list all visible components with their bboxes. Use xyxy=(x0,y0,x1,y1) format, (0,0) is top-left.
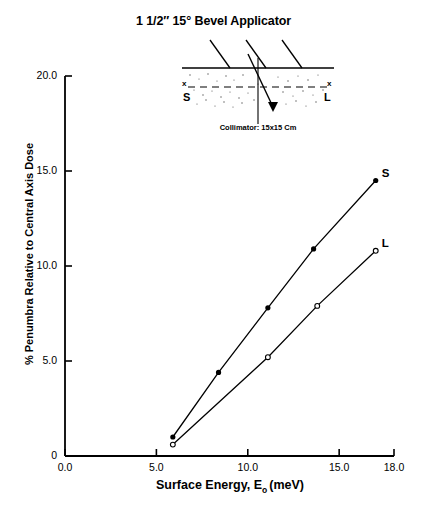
x-tick-label: 18.0 xyxy=(369,461,419,473)
x-tick-label: 10.0 xyxy=(223,461,273,473)
x-axis-title-main: Surface Energy, E xyxy=(156,478,262,492)
data-point-l xyxy=(265,355,270,360)
data-point-l xyxy=(315,304,320,309)
data-point-s xyxy=(373,178,378,183)
plot-area xyxy=(0,0,427,506)
tick-marks xyxy=(65,76,394,456)
data-series xyxy=(170,178,378,447)
y-axis-title: % Penumbra Relative to Central Axis Dose xyxy=(23,89,35,419)
data-point-l xyxy=(170,442,175,447)
series-label-s: S xyxy=(382,167,390,179)
x-axis-title-subscript: o xyxy=(262,485,267,495)
x-tick-label: 0.0 xyxy=(40,461,90,473)
x-tick-label: 5.0 xyxy=(131,461,181,473)
data-point-l xyxy=(373,248,378,253)
x-axis-title-unit: (meV) xyxy=(269,478,304,492)
data-point-s xyxy=(265,305,270,310)
y-tick-label: 0 xyxy=(0,449,57,461)
data-point-s xyxy=(170,434,175,439)
data-point-s xyxy=(216,370,221,375)
data-point-s xyxy=(311,246,316,251)
series-label-l: L xyxy=(382,237,389,249)
series-line-s xyxy=(173,181,376,438)
x-axis-title: Surface Energy, Eo(meV) xyxy=(60,478,400,495)
series-line-l xyxy=(173,251,376,445)
y-tick-label: 20.0 xyxy=(0,69,57,81)
x-tick-label: 15.0 xyxy=(314,461,364,473)
